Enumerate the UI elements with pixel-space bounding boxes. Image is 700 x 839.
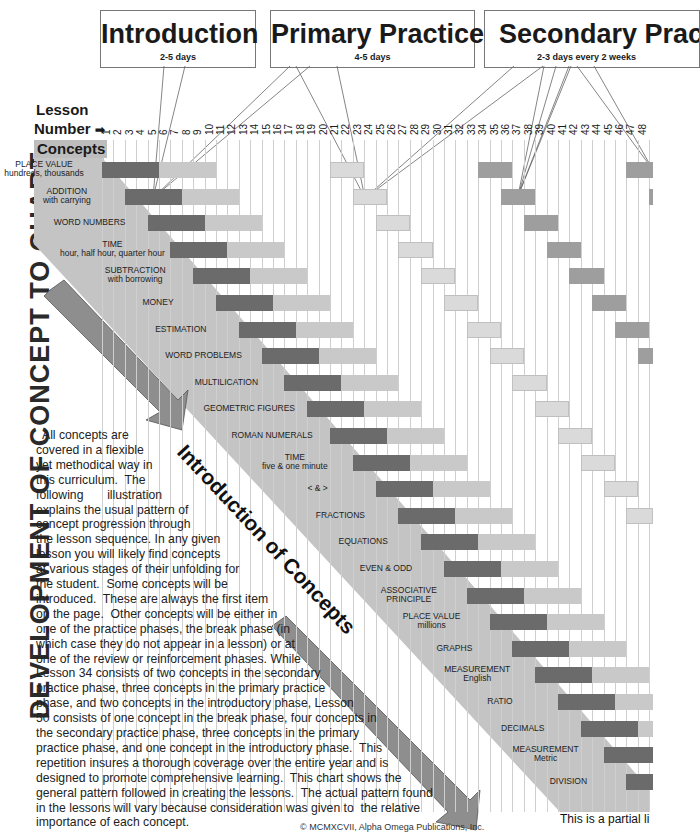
concept-label: ASSOCIATIVEPRINCIPLE [354, 586, 464, 604]
paragraph-line: phase, and two concepts in the introduct… [36, 696, 354, 710]
paragraph-line: importance of each concept. [36, 815, 189, 829]
paragraph-line: following illustration [36, 488, 162, 502]
primary-practice-bar [182, 189, 239, 205]
paragraph-line: concept progression through [36, 517, 190, 531]
primary-practice-bar [638, 721, 653, 737]
intro-bar [535, 667, 592, 683]
grid-line [398, 140, 399, 812]
concept-label: EVEN & ODD [331, 564, 441, 573]
paragraph-line: yet methodical way in [36, 458, 153, 472]
secondary-practice-bar [604, 481, 638, 497]
concept-label: PLACE VALUEmillions [377, 612, 487, 630]
concept-label: ESTIMATION [126, 325, 236, 334]
paragraph-line: the secondary practice phase, three conc… [36, 726, 359, 740]
intro-bar [376, 481, 433, 497]
paragraph-line: Lesson 34 consists of two concepts in th… [36, 666, 321, 680]
intro-bar [421, 534, 478, 550]
paragraph-line: designed to promote comprehensive learni… [36, 771, 402, 785]
intro-bar [490, 614, 547, 630]
concept-label: TIMEhour, half hour, quarter hour [57, 240, 167, 258]
grid-line [569, 140, 570, 812]
concept-label: SUBTRACTIONwith borrowing [80, 266, 190, 284]
intro-bar [581, 721, 638, 737]
paragraph-line: this curriculum. The [36, 473, 146, 487]
paragraph-line: introduced. These are always the first i… [36, 592, 268, 606]
intro-bar [284, 375, 341, 391]
paragraph-line: one of the practice phases, the break ph… [36, 622, 290, 636]
grid-line [410, 140, 411, 812]
grid-line [490, 140, 491, 812]
concept-label: FRACTIONS [285, 511, 395, 520]
concept-label: DIVISION [513, 777, 623, 786]
grid-line [421, 140, 422, 812]
grid-line [547, 140, 548, 812]
intro-bar [239, 322, 296, 338]
primary-practice-bar [501, 561, 558, 577]
intro-bar [353, 455, 410, 471]
primary-practice-bar [524, 588, 581, 604]
paragraph-line: one of the review or reinforcement phase… [36, 652, 301, 666]
primary-practice-bar [387, 428, 444, 444]
secondary-practice-bar [330, 162, 364, 178]
grid-line [524, 140, 525, 812]
grid-line [512, 140, 513, 812]
concept-label: GEOMETRIC FIGURES [194, 404, 304, 413]
concept-label: RATIO [445, 697, 555, 706]
secondary-practice-bar [421, 268, 455, 284]
intro-bar [398, 508, 455, 524]
grid-line [455, 140, 456, 812]
secondary-practice-bar [569, 268, 603, 284]
secondary-practice-bar [376, 215, 410, 231]
concept-label: MONEY [103, 298, 213, 307]
paragraph-line: in the lessons will vary because conside… [36, 801, 420, 815]
grid-line [501, 140, 502, 812]
secondary-practice-bar [467, 322, 501, 338]
intro-bar [148, 215, 205, 231]
intro-bar [193, 268, 250, 284]
concept-label: MEASUREMENTEnglish [422, 665, 532, 683]
concept-label: WORD PROBLEMS [149, 351, 259, 360]
secondary-practice-bar [592, 295, 626, 311]
primary-practice-bar [296, 322, 353, 338]
paragraph-line: repetition insures a thorough coverage o… [36, 756, 388, 770]
grid-line [444, 140, 445, 812]
concepts-header: Concepts [34, 140, 107, 158]
intro-bar [604, 747, 653, 763]
grid-line [433, 140, 434, 812]
secondary-practice-bar [547, 242, 581, 258]
concept-label: DECIMALS [468, 724, 578, 733]
secondary-practice-bar [649, 189, 653, 205]
grid-line [387, 140, 388, 812]
concept-label: TIMEfive & one minute [240, 453, 350, 471]
intro-bar [467, 588, 524, 604]
concept-label: ROMAN NUMERALS [217, 431, 327, 440]
concept-label: GRAPHS [399, 644, 509, 653]
primary-practice-bar [615, 694, 653, 710]
grid-line [649, 140, 650, 812]
primary-practice-bar [341, 375, 398, 391]
paragraph-line: practice phase, three concepts in the pr… [36, 681, 325, 695]
grid-line [626, 140, 627, 812]
grid-line [638, 140, 639, 812]
secondary-practice-bar [353, 189, 387, 205]
concept-label: < & > [263, 484, 373, 493]
paragraph-line: the student. Some concepts will be [36, 577, 228, 591]
secondary-practice-bar [512, 375, 546, 391]
primary-practice-bar [159, 162, 216, 178]
intro-bar [512, 641, 569, 657]
concept-label: MULTILICATION [171, 378, 281, 387]
paragraph-line: All concepts are [42, 428, 129, 442]
paragraph-line: on the page. Other concepts will be eith… [36, 607, 277, 621]
primary-practice-bar [547, 614, 604, 630]
paragraph-line: 50 consists of one concept in the break … [36, 711, 377, 725]
primary-practice-bar [273, 295, 330, 311]
primary-practice-bar [569, 641, 626, 657]
primary-practice-bar [410, 455, 467, 471]
intro-bar [125, 189, 182, 205]
intro-bar [170, 242, 227, 258]
primary-practice-bar [205, 215, 262, 231]
intro-bar [444, 561, 501, 577]
intro-bar [262, 348, 319, 364]
paragraph-line: covered in a flexible [36, 443, 144, 457]
partial-list-note: This is a partial li [560, 812, 649, 826]
